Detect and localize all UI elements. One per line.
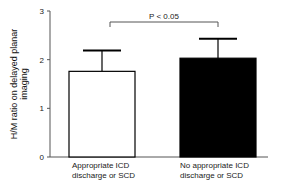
category-label: No appropriate ICD — [180, 161, 249, 170]
y-tick-label: 1 — [40, 104, 45, 113]
significance-annotation: P < 0.05 — [110, 12, 218, 27]
y-axis-title: H/M ratio on delayed planarimaging — [9, 29, 29, 140]
y-tick-label: 0 — [40, 153, 45, 162]
y-axis-title-line: imaging — [19, 68, 29, 100]
y-axis-title-group: H/M ratio on delayed planarimaging — [9, 29, 29, 140]
bar-chart: 0123 P < 0.05 H/M ratio on delayed plana… — [0, 0, 281, 188]
category-label: discharge or SCD — [72, 171, 135, 180]
y-tick-label: 3 — [40, 7, 45, 16]
bar-appropriate-icd — [69, 71, 135, 157]
category-label: Appropriate ICD — [72, 161, 130, 170]
category-label: discharge or SCD — [180, 171, 243, 180]
bar-no-appropriate-icd — [180, 58, 256, 157]
significance-bracket — [110, 22, 218, 27]
bars — [69, 39, 256, 157]
y-axis: 0123 — [40, 7, 50, 162]
category-labels: Appropriate ICDdischarge or SCDNo approp… — [72, 161, 249, 180]
y-axis-title-line: H/M ratio on delayed planar — [9, 29, 19, 140]
y-tick-label: 2 — [40, 56, 45, 65]
p-value-label: P < 0.05 — [149, 12, 179, 21]
